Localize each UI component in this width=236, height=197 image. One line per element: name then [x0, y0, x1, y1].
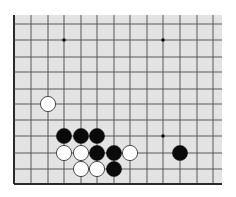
black-stone — [106, 161, 121, 176]
black-stone — [172, 145, 187, 160]
star-point — [161, 134, 165, 138]
white-stone — [73, 161, 88, 176]
white-stone — [40, 96, 55, 111]
star-point — [62, 38, 66, 42]
white-stone — [89, 161, 104, 176]
star-point — [161, 38, 165, 42]
black-stone — [89, 128, 104, 143]
black-stone — [106, 145, 121, 160]
black-stone — [56, 128, 71, 143]
white-stone — [56, 145, 71, 160]
go-board — [0, 0, 236, 197]
black-stone — [73, 128, 88, 143]
white-stone — [73, 145, 88, 160]
black-stone — [89, 145, 104, 160]
white-stone — [122, 145, 137, 160]
